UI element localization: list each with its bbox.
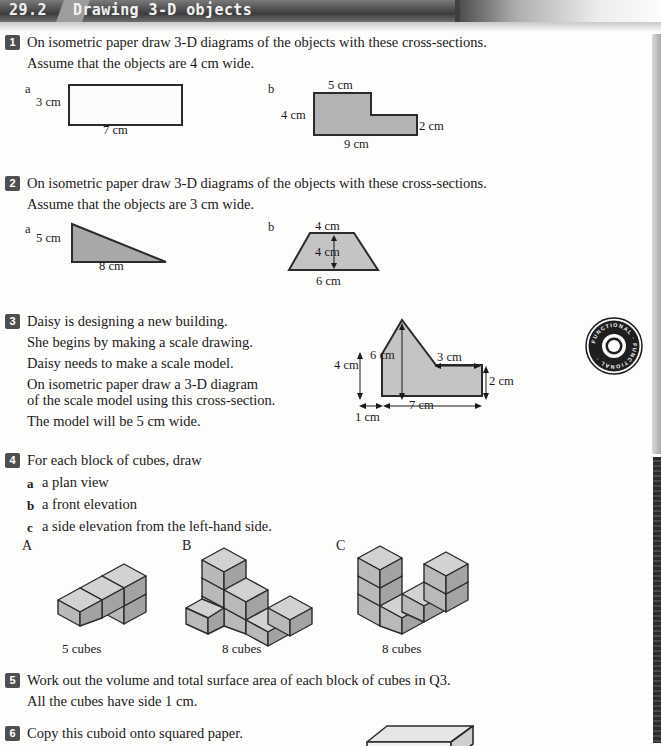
question-number-2: 2 bbox=[5, 176, 20, 191]
question-5-line-2: All the cubes have side 1 cm. bbox=[27, 692, 197, 711]
banner-fade bbox=[455, 0, 661, 22]
question-4-subpart-b-text: a front elevation bbox=[42, 495, 137, 514]
q3-dim-ledge: 3 cm bbox=[437, 350, 462, 365]
block-b-cubes-diagram bbox=[186, 538, 321, 632]
block-a-letter: A bbox=[22, 538, 32, 554]
question-number-3: 3 bbox=[5, 314, 20, 329]
question-4-subpart-b-label: b bbox=[27, 496, 34, 515]
question-number-5: 5 bbox=[5, 673, 20, 688]
question-2-line-2: Assume that the objects are 3 cm wide. bbox=[27, 195, 254, 214]
q2b-dim-top: 4 cm bbox=[315, 219, 340, 234]
q2a-dim-left: 5 cm bbox=[36, 231, 61, 246]
question-5-line-1: Work out the volume and total surface ar… bbox=[27, 671, 451, 690]
q3-dim-apex-height: 6 cm bbox=[370, 348, 395, 363]
q2a-triangle-diagram bbox=[70, 222, 168, 264]
q2b-dim-height: 4 cm bbox=[315, 245, 340, 260]
q2b-dim-bottom: 6 cm bbox=[316, 274, 341, 289]
question-3-line-6: The model will be 5 cm wide. bbox=[27, 412, 201, 431]
q1a-dim-bottom: 7 cm bbox=[103, 123, 128, 138]
question-4-subpart-c-label: c bbox=[27, 518, 33, 537]
q1b-dim-top: 5 cm bbox=[328, 78, 353, 93]
q1b-dim-right: 2 cm bbox=[419, 119, 444, 134]
block-a-caption: 5 cubes bbox=[62, 641, 101, 657]
question-4-subpart-c-text: a side elevation from the left-hand side… bbox=[42, 517, 272, 536]
question-number-1: 1 bbox=[5, 35, 20, 50]
page-tab-grey bbox=[652, 34, 661, 454]
question-4-subpart-a-text: a plan view bbox=[42, 473, 109, 492]
q2a-dim-bottom: 8 cm bbox=[99, 259, 124, 274]
question-number-6: 6 bbox=[5, 726, 20, 741]
q1b-lshape-diagram bbox=[313, 92, 418, 137]
question-1-part-a-label: a bbox=[25, 82, 31, 97]
question-2-line-1: On isometric paper draw 3-D diagrams of … bbox=[27, 174, 487, 193]
question-3-line-2: She begins by making a scale drawing. bbox=[27, 333, 253, 352]
question-6-line-1: Copy this cuboid onto squared paper. bbox=[27, 724, 243, 743]
question-1-line-2: Assume that the objects are 4 cm wide. bbox=[27, 54, 254, 73]
q3-dim-base-main: 7 cm bbox=[409, 398, 434, 413]
question-3-line-3: Daisy needs to make a scale model. bbox=[27, 354, 234, 373]
page-tab-dark bbox=[653, 457, 661, 743]
functional-skills-stamp-icon: FUNCTIONAL · FUNCTIONAL · bbox=[584, 316, 644, 376]
question-3-line-5: of the scale model using this cross-sect… bbox=[27, 391, 275, 410]
block-b-caption: 8 cubes bbox=[222, 641, 261, 657]
section-number: 29.2 bbox=[9, 1, 47, 19]
question-3-line-1: Daisy is designing a new building. bbox=[27, 312, 228, 331]
question-1-part-b-label: b bbox=[268, 82, 274, 97]
question-1-line-1: On isometric paper draw 3-D diagrams of … bbox=[27, 33, 487, 52]
block-c-cubes-diagram bbox=[348, 534, 483, 634]
q1a-dim-left: 3 cm bbox=[36, 95, 61, 110]
q1b-dim-bottom: 9 cm bbox=[344, 137, 369, 152]
q3-dim-right-height: 2 cm bbox=[489, 374, 514, 389]
q1b-dim-left: 4 cm bbox=[281, 108, 306, 123]
question-2-part-b-label: b bbox=[268, 220, 274, 235]
question-4-line-1: For each block of cubes, draw bbox=[27, 451, 202, 470]
q3-dim-wall-height: 4 cm bbox=[334, 358, 359, 373]
block-c-letter: C bbox=[336, 538, 345, 554]
question-2-part-a-label: a bbox=[25, 222, 31, 237]
q1a-rectangle-diagram bbox=[68, 84, 183, 126]
question-4-subpart-a-label: a bbox=[27, 474, 34, 493]
block-a-cubes-diagram bbox=[40, 550, 160, 628]
section-title: Drawing 3-D objects bbox=[73, 1, 252, 19]
section-banner: 29.2 Drawing 3-D objects bbox=[0, 0, 460, 22]
q3-dim-base-offset: 1 cm bbox=[355, 410, 380, 425]
question-number-4: 4 bbox=[5, 453, 20, 468]
q6-cuboid-diagram bbox=[365, 716, 485, 746]
block-c-caption: 8 cubes bbox=[382, 641, 421, 657]
